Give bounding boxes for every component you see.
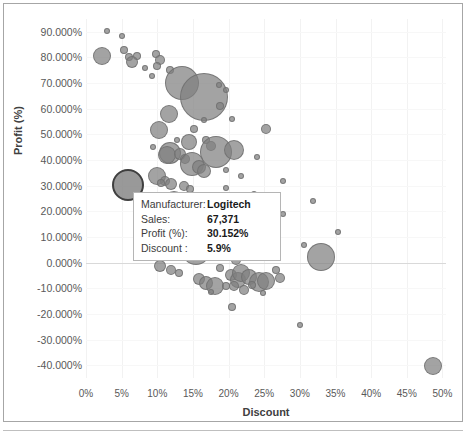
bubble-point[interactable]	[254, 154, 260, 160]
bubble-point[interactable]	[154, 260, 166, 272]
bubble-point[interactable]	[181, 134, 197, 150]
x-axis-tick-label: 15%	[173, 389, 213, 399]
y-axis-tick-label: 10.000%	[41, 232, 82, 243]
y-gridline	[86, 314, 446, 315]
tooltip-value: 5.9%	[207, 241, 231, 256]
tooltip-label: Manufacturer:	[141, 197, 207, 212]
bubble-point[interactable]	[174, 137, 180, 143]
x-gridline	[442, 19, 443, 378]
y-axis-tick-label: 60.000%	[41, 104, 82, 115]
bubble-point[interactable]	[153, 62, 161, 70]
bubble-point[interactable]	[166, 265, 176, 275]
x-gridline	[371, 19, 372, 378]
tooltip-row: Sales:67,371	[141, 212, 274, 227]
bubble-point[interactable]	[197, 164, 211, 178]
bubble-chart-page: 90.000%80.000%70.000%60.000%50.000%40.00…	[0, 0, 467, 446]
bubble-point[interactable]	[158, 146, 176, 164]
y-axis-tick-label: 80.000%	[41, 52, 82, 63]
y-axis-tick-label: 50.000%	[41, 129, 82, 140]
bubble-point[interactable]	[223, 185, 229, 191]
bubble-point[interactable]	[239, 285, 249, 295]
bubble-point[interactable]	[175, 269, 183, 277]
y-gridline	[86, 134, 446, 135]
y-axis-tick-label: -30.000%	[37, 335, 82, 346]
x-axis-tick-label: 40%	[351, 389, 391, 399]
bubble-point[interactable]	[224, 140, 244, 160]
bubble-point[interactable]	[229, 116, 235, 122]
tooltip-label: Discount :	[141, 241, 207, 256]
y-axis-tick-label: -40.000%	[37, 360, 82, 371]
x-axis-tick-label: 50%	[422, 389, 462, 399]
bubble-point[interactable]	[119, 33, 125, 39]
x-axis-tick-label: 0%	[66, 389, 106, 399]
y-gridline	[86, 83, 446, 84]
x-axis-tick-label: 35%	[316, 389, 356, 399]
bubble-point[interactable]	[216, 82, 222, 88]
bubble-point[interactable]	[229, 281, 239, 291]
bubble-point[interactable]	[150, 121, 168, 139]
bubble-point[interactable]	[280, 178, 286, 184]
bubble-point[interactable]	[216, 102, 224, 110]
bubble-point[interactable]	[190, 125, 198, 133]
tooltip-value: 67,371	[207, 212, 239, 227]
bubble-point[interactable]	[223, 167, 229, 173]
tooltip-row: Manufacturer:Logitech	[141, 197, 274, 212]
bubble-point[interactable]	[310, 198, 316, 204]
zero-baseline	[86, 263, 446, 264]
y-axis-tick-label: 0.000%	[46, 258, 82, 269]
y-axis-tick-label: -10.000%	[37, 283, 82, 294]
bubble-point[interactable]	[248, 281, 256, 289]
bubble-point[interactable]	[180, 73, 228, 121]
tooltip-row: Profit (%):30.152%	[141, 226, 274, 241]
bubble-point[interactable]	[150, 144, 156, 150]
bubble-point[interactable]	[297, 322, 303, 328]
data-point-tooltip: Manufacturer:LogitechSales:67,371Profit …	[133, 192, 281, 261]
bubble-point[interactable]	[149, 73, 155, 79]
y-gridline	[86, 32, 446, 33]
bubble-point[interactable]	[424, 357, 442, 375]
tooltip-row: Discount :5.9%	[141, 241, 274, 256]
x-axis-tick-label: 25%	[244, 389, 284, 399]
bubble-point[interactable]	[142, 65, 148, 71]
bubble-point[interactable]	[228, 303, 236, 311]
bubble-point[interactable]	[201, 117, 207, 123]
bubble-point[interactable]	[301, 242, 307, 248]
y-axis-tick-label: 70.000%	[41, 78, 82, 89]
x-gridline	[407, 19, 408, 378]
x-axis-tick-label: 30%	[280, 389, 320, 399]
bubble-point[interactable]	[260, 290, 266, 296]
x-axis-tick-label: 10%	[137, 389, 177, 399]
tooltip-value: 30.152%	[207, 226, 248, 241]
y-gridline	[86, 160, 446, 161]
bubble-point[interactable]	[257, 272, 275, 290]
bubble-point[interactable]	[93, 47, 111, 65]
y-gridline	[86, 109, 446, 110]
bubble-point[interactable]	[307, 243, 335, 271]
x-axis-title: Discount	[86, 406, 446, 418]
bubble-point[interactable]	[335, 229, 341, 235]
x-axis-tick-label: 20%	[209, 389, 249, 399]
tooltip-label: Sales:	[141, 212, 207, 227]
y-axis-tick-label: 30.000%	[41, 181, 82, 192]
bubble-point[interactable]	[165, 178, 177, 190]
bubble-point[interactable]	[157, 179, 165, 187]
bubble-point[interactable]	[223, 87, 229, 93]
x-gridline	[336, 19, 337, 378]
bubble-point[interactable]	[216, 264, 224, 272]
bubble-point[interactable]	[104, 28, 110, 34]
bubble-point[interactable]	[275, 273, 285, 283]
y-axis-tick-label: -20.000%	[37, 309, 82, 320]
x-axis-tick-labels: 0%5%10%15%20%25%30%35%40%45%50%	[86, 389, 446, 405]
bubble-point[interactable]	[238, 173, 244, 179]
y-axis-tick-label: 20.000%	[41, 206, 82, 217]
y-axis-tick-label: 40.000%	[41, 155, 82, 166]
bubble-point[interactable]	[126, 56, 138, 68]
y-gridline	[86, 365, 446, 366]
bubble-point[interactable]	[261, 124, 271, 134]
y-axis-title: Profit (%)	[12, 106, 24, 155]
tooltip-value: Logitech	[207, 197, 251, 212]
y-axis-tick-label: 90.000%	[41, 27, 82, 38]
x-axis-tick-label: 5%	[102, 389, 142, 399]
y-axis-tick-labels: 90.000%80.000%70.000%60.000%50.000%40.00…	[0, 0, 82, 446]
x-gridline	[86, 19, 87, 378]
